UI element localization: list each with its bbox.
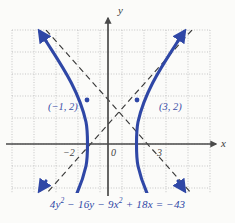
coordinate-axes [6,18,216,196]
graph-canvas [0,0,235,223]
equation-token: − 9 [94,198,113,210]
equation-caption: 4y2 − 16y − 9x2 + 18x = −43 [0,197,235,210]
equation-token: = −43 [153,198,186,210]
hyperbola-figure: y x 0 −2 3 (−1, 2) (3, 2) 4y2 − 16y − 9x… [0,0,235,223]
grid [12,30,210,193]
vertex-left-marker [85,98,90,103]
left-branch [41,33,88,223]
vertex-right-marker [135,98,140,103]
arrow-left-bottom [40,181,46,190]
equation-token: − 16 [64,198,89,210]
hyperbola-curve [41,33,183,223]
equation-token: + 18 [123,198,148,210]
right-branch [137,33,184,223]
